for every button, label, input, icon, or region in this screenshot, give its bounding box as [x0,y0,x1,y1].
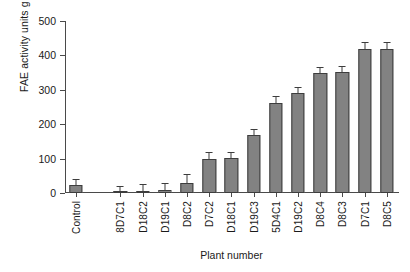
error-bar-cap [73,179,80,180]
x-tick-mark [342,193,343,197]
y-tick-label: 400 [38,49,56,61]
x-tick-mark [387,193,388,197]
x-tick-label: D19C1 [159,201,170,233]
y-tick-label: 200 [38,118,56,130]
error-bar-cap [250,129,257,130]
error-bar-cap [317,67,324,68]
bar [269,103,282,193]
error-bar-line [275,97,276,103]
bar [314,73,327,193]
error-bar-cap [383,42,390,43]
error-bar-cap [184,174,191,175]
bar [336,72,349,193]
error-bar-line [364,43,365,49]
error-bar-cap [361,42,368,43]
x-tick-mark [365,193,366,197]
bar-slot-gap [87,21,109,193]
bar-slot: D18C1 [220,21,242,193]
x-tick-mark [76,193,77,197]
bar-slot: D19C2 [287,21,309,193]
x-tick-mark [209,193,210,197]
x-tick-label: D19C3 [248,201,259,233]
error-bar-line [142,185,143,191]
error-bar-cap [139,184,146,185]
error-bar-line [164,184,165,190]
error-bar-line [253,130,254,136]
x-tick-label: D8C5 [381,201,392,227]
x-tick-label: D7C2 [204,201,215,227]
error-bar-line [187,175,188,182]
bar-slot: D8C5 [376,21,398,193]
error-bar-line [386,43,387,49]
x-tick-mark [143,193,144,197]
x-tick-mark [320,193,321,197]
y-tick-label: 500 [38,15,56,27]
x-tick-mark [187,193,188,197]
x-tick-label: D8C3 [337,201,348,227]
plot-area: 0100200300400500 Control8D7C1D18C2D19C1D… [65,21,398,193]
y-axis-title: FAE activity units g fresh wt−1 [13,0,29,115]
bar-slot: D8C4 [309,21,331,193]
bar-slot: D8C2 [176,21,198,193]
y-tick-mark [60,193,65,194]
bar-slot: D8C3 [331,21,353,193]
bar [291,93,304,193]
y-tick-label: 300 [38,84,56,96]
bar-slot: D19C1 [154,21,176,193]
bar-chart: FAE activity units g fresh wt−1 01002003… [0,0,410,272]
bar [358,49,371,193]
error-bar-cap [339,66,346,67]
bars-group: Control8D7C1D18C2D19C1D8C2D7C2D18C1D19C3… [65,21,398,193]
x-tick-label: 8D7C1 [115,201,126,233]
x-tick-label: D7C1 [359,201,370,227]
bar-slot: Control [65,21,87,193]
x-tick-label: D8C2 [182,201,193,227]
bar [225,158,238,193]
x-tick-label: D19C2 [293,201,304,233]
x-tick-mark [231,193,232,197]
error-bar-cap [228,152,235,153]
bar-slot: D7C2 [198,21,220,193]
bar [380,49,393,193]
y-tick-label: 0 [50,187,56,199]
error-bar-cap [272,96,279,97]
error-bar-line [342,67,343,72]
x-tick-mark [165,193,166,197]
x-tick-mark [120,193,121,197]
y-axis-title-text: FAE activity units g fresh wt [18,0,30,92]
bar-slot: D18C2 [132,21,154,193]
error-bar-line [231,153,232,159]
bar [180,183,193,193]
error-bar-cap [206,152,213,153]
bar-slot: D7C1 [354,21,376,193]
x-axis-title: Plant number [65,249,398,261]
error-bar-line [298,88,299,93]
x-tick-mark [298,193,299,197]
error-bar-cap [295,87,302,88]
x-tick-label: D18C2 [137,201,148,233]
error-bar-line [120,187,121,193]
bar [247,135,260,193]
error-bar-cap [117,186,124,187]
bar-slot: D19C3 [243,21,265,193]
x-tick-label: Control [71,201,82,234]
bar-slot: 5D4C1 [265,21,287,193]
y-tick-label: 100 [38,153,56,165]
bar [69,185,82,193]
x-tick-mark [276,193,277,197]
x-tick-label: D8C4 [315,201,326,227]
error-bar-line [320,68,321,73]
error-bar-line [209,153,210,159]
x-tick-label: 5D4C1 [270,201,281,233]
bar-slot: 8D7C1 [109,21,131,193]
error-bar-cap [161,183,168,184]
x-tick-label: D18C1 [226,201,237,233]
x-tick-mark [254,193,255,197]
bar [203,159,216,193]
error-bar-line [76,180,77,185]
